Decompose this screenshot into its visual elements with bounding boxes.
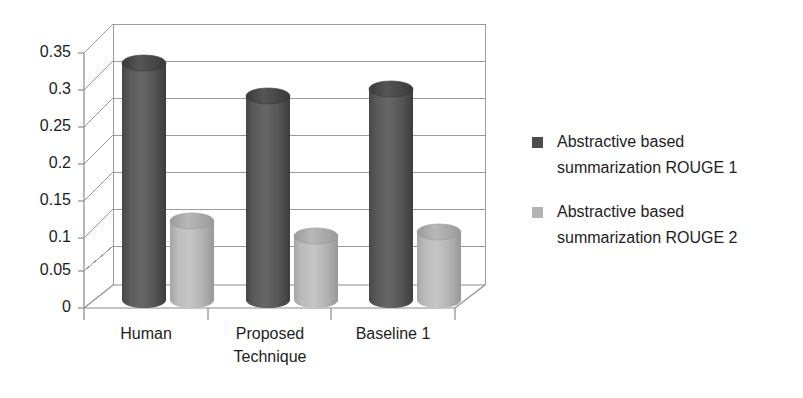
bar-group-baseline-1 [369,81,461,308]
legend: Abstractive based summarization ROUGE 1 … [532,133,738,246]
y-tick-label: 0.05 [40,261,71,278]
bar-human-rouge2[interactable] [170,213,214,308]
x-tick-label-baseline-1: Baseline 1 [356,325,431,342]
x-axis-ticks [84,308,455,320]
bar-group-proposed-technique [246,88,338,308]
y-tick-label: 0.2 [49,154,71,171]
bar-proposed-technique-rouge1[interactable] [246,88,290,308]
y-axis-ticks [78,53,84,308]
x-axis-labels: Human Proposed Technique Baseline 1 [120,325,430,365]
legend-label-rouge2-line2: summarization ROUGE 2 [557,229,738,246]
y-tick-label: 0.15 [40,191,71,208]
gridline-0.35 [84,24,485,53]
y-tick-label: 0.35 [40,43,71,60]
x-tick-label-proposed: Proposed [236,325,305,342]
x-tick-label-human: Human [120,325,172,342]
bar-group-human [122,55,214,308]
legend-item-rouge1[interactable]: Abstractive based summarization ROUGE 1 [532,133,738,176]
bar-proposed-technique-rouge2[interactable] [294,228,338,308]
bar-baseline-1-rouge1[interactable] [369,81,413,308]
bar-chart-3d: 0.35 0.3 0.25 0.2 0.15 0.1 0.05 0 [0,0,803,398]
y-tick-label: 0.3 [49,80,71,97]
legend-swatch-rouge1 [532,137,543,148]
y-axis-labels: 0.35 0.3 0.25 0.2 0.15 0.1 0.05 0 [40,43,71,315]
chart-container: 0.35 0.3 0.25 0.2 0.15 0.1 0.05 0 [0,0,803,398]
x-tick-label-technique: Technique [234,348,307,365]
legend-label-rouge2-line1: Abstractive based [557,203,684,220]
y-tick-label: 0.25 [40,117,71,134]
legend-item-rouge2[interactable]: Abstractive based summarization ROUGE 2 [532,203,738,246]
y-tick-label: 0.1 [49,228,71,245]
legend-label-rouge1-line1: Abstractive based [557,133,684,150]
bar-baseline-1-rouge2[interactable] [417,224,461,308]
y-tick-label: 0 [62,298,71,315]
legend-swatch-rouge2 [532,207,543,218]
bar-human-rouge1[interactable] [122,55,166,308]
legend-label-rouge1-line2: summarization ROUGE 1 [557,159,738,176]
